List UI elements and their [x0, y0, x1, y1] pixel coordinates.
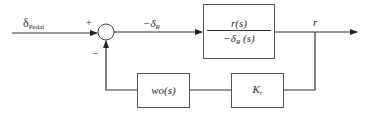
output-label: r: [313, 17, 317, 28]
input-label: δPedal: [23, 17, 44, 31]
wo-block: wo(s): [137, 73, 190, 108]
denominator: −δR (s): [223, 31, 254, 46]
error-signal-label: −δR: [143, 18, 160, 31]
wo-label: wo(s): [151, 85, 175, 96]
kr-label: Kr: [252, 84, 262, 97]
plus-sign: +: [86, 18, 92, 28]
numerator: r(s): [229, 17, 249, 30]
kr-block: Kr: [231, 73, 284, 108]
block-diagram: δPedal + − −δR r(s) −δR (s) r wo(s) Kr: [0, 0, 370, 114]
summing-junction-circle: [98, 24, 114, 40]
minus-sign: −: [92, 48, 98, 59]
feedback-wire-right: [284, 32, 315, 90]
forward-transfer-block: r(s) −δR (s): [203, 4, 275, 59]
transfer-function-fraction: r(s) −δR (s): [207, 17, 271, 46]
feedback-wire-left: [106, 41, 137, 90]
